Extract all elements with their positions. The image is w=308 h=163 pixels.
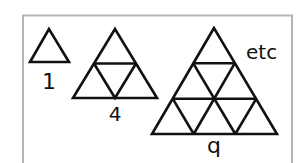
triangle-9-label: q	[207, 133, 221, 158]
triangle-pattern-diagram: 1 4 q etc	[0, 0, 308, 163]
triangle-4-label: 4	[109, 102, 122, 126]
triangle-1-subdivision	[30, 29, 69, 62]
diagram-canvas: 1 4 q etc	[0, 0, 308, 163]
triangle-4-subdivision	[73, 29, 157, 98]
triangle-1-label: 1	[42, 69, 56, 94]
etc-annotation: etc	[246, 40, 277, 64]
